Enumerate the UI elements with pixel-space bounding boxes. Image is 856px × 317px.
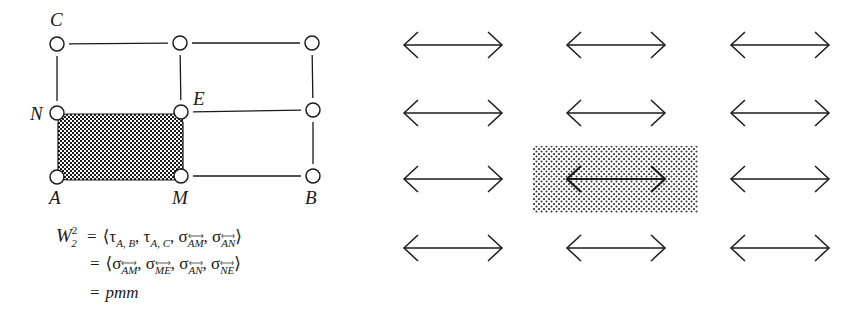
lattice-node-top-right [305,36,319,50]
formula-line-2: =⟨σAM, σME, σAN, σNE⟩ [90,255,241,272]
group-name: pmm [106,283,139,302]
generator-term: σNE [211,254,234,273]
double-arrow-icon [731,166,829,192]
node-label-b: B [305,188,317,207]
double-arrow-icon [567,100,665,126]
double-arrow-icon [567,32,665,58]
generator-list-1: ⟨τA, B, τA, C, σAM, σAN⟩ [103,227,242,246]
lattice-edge [180,55,181,100]
shaded-unit-cell [58,114,183,180]
formula-line-1: W22 =⟨τA, B, τA, C, σAM, σAN⟩ [56,226,242,245]
double-arrow-icon [731,100,829,126]
generator-term: σAM [179,227,204,246]
generator-list-2: ⟨σAM, σME, σAN, σNE⟩ [106,254,241,273]
line-overarrow-icon [121,260,137,266]
comma-separator: , [135,227,144,246]
lattice-edge [193,110,301,112]
double-arrow-icon [567,235,665,261]
wallpaper-group-symbol: W [56,225,72,246]
comma-separator: , [203,254,212,273]
lattice-node-c [50,37,64,51]
comma-separator: , [137,254,146,273]
lattice-node-n [50,106,64,120]
lattice-node-m [174,169,188,183]
line-overarrow-icon [189,260,203,266]
lattice-node-top-mid [173,36,187,50]
lhs-subscript: 2 [71,237,77,249]
node-label-c: C [50,10,63,29]
lattice-node-b [306,169,320,183]
node-label-a: A [49,188,61,207]
double-arrow-icon [404,32,502,58]
equals-sign: = [90,254,100,273]
double-arrow-icon [404,235,502,261]
node-label-m: M [172,188,188,207]
line-overarrow-icon [221,233,235,239]
close-angle-bracket: ⟩ [235,227,242,246]
lhs-superscript: 2 [72,224,78,236]
figure: C N E A M B W22 =⟨τA, B, τA, C, σAM, σAN… [0,0,856,317]
equals-sign: = [87,227,97,246]
generator-term: τA, C [144,227,170,246]
comma-separator: , [170,227,179,246]
lattice-node-e [174,105,188,119]
node-label-n: N [30,104,43,123]
line-overarrow-icon [155,260,171,266]
lattice-edge [312,55,313,98]
node-label-e: E [193,89,205,108]
lattice-edge [69,43,168,44]
double-arrow-icon [404,166,502,192]
generator-term: σAN [179,254,202,273]
double-arrow-icon [731,235,829,261]
generator-term: σME [146,254,171,273]
generator-term: σAM [112,254,137,273]
lattice-node-a [50,170,64,184]
checkered-shade [58,114,183,180]
formula-line-3: =pmm [90,284,139,301]
close-angle-bracket: ⟩ [234,254,241,273]
equals-sign: = [90,283,100,302]
comma-separator: , [204,227,213,246]
lattice-node-mid-right [306,103,320,117]
line-overarrow-icon [188,233,204,239]
line-overarrow-icon [220,260,234,266]
generator-term: τA, B [109,227,135,246]
double-arrow-icon [404,100,502,126]
generator-term: σAN [212,227,235,246]
double-arrow-icon [731,32,829,58]
